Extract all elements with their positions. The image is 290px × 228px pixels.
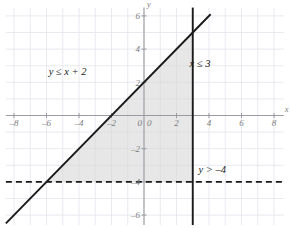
y-tick-label: –6 [130,210,141,220]
x-tick-label: –6 [41,118,52,128]
x-tick-label: 2 [174,118,179,128]
x-tick-label: –2 [106,118,117,128]
x-tick-label: 6 [239,118,244,128]
inequality-label: y > –4 [198,164,227,175]
graph-figure: –8–6–4–2024686420–2–4–6 y ≤ x + 2x ≤ 3y … [0,0,290,228]
x-tick-label: –4 [74,118,85,128]
y-tick-label: 6 [136,11,141,21]
y-tick-label: 4 [136,44,141,54]
y-axis-label: y [146,0,151,9]
y-tick-label: 2 [136,78,141,88]
inequality-label: x ≤ 3 [189,58,211,69]
inequality-label: y ≤ x + 2 [48,66,88,77]
y-tick-label: –4 [130,177,141,187]
x-tick-label: 8 [272,118,277,128]
y-tick-label: 0 [147,118,152,128]
x-tick-label: –8 [9,118,20,128]
y-tick-label: –2 [130,144,141,154]
x-tick-label: 0 [138,118,143,128]
x-tick-label: 4 [207,118,212,128]
inequality-graph-svg: –8–6–4–2024686420–2–4–6 y ≤ x + 2x ≤ 3y … [0,0,290,228]
x-axis-label: x [284,104,289,114]
